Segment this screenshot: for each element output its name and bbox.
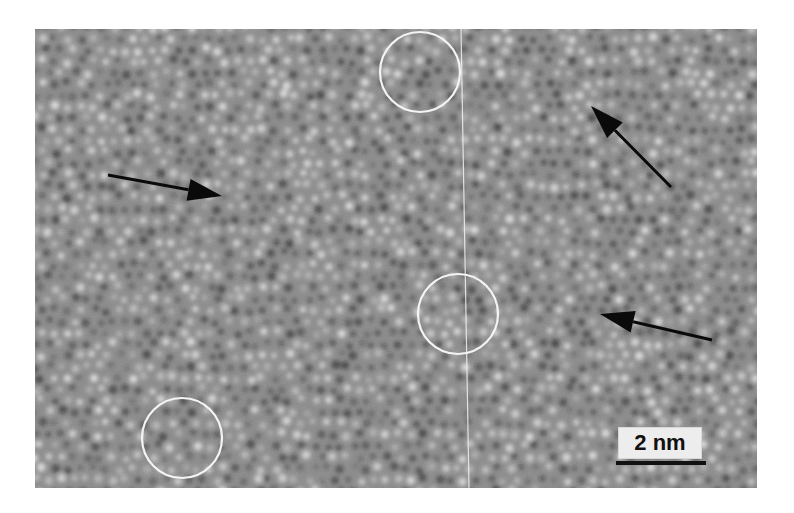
scale-bar [616, 461, 706, 465]
hrtem-micrograph [35, 29, 757, 488]
scale-bar-label: 2 nm [618, 427, 702, 459]
lattice-texture [35, 29, 757, 488]
